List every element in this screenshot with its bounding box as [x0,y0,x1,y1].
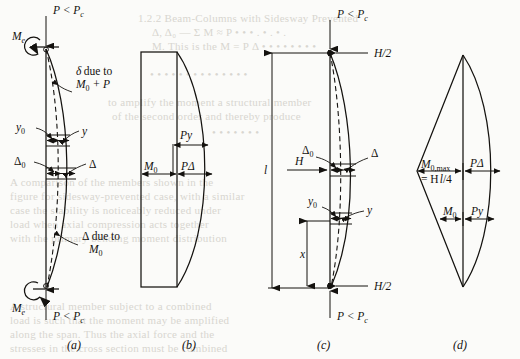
panel-a-caption: (a) [67,338,81,352]
panel-a-bottom-load-label: P < Pc [52,310,84,325]
panel-a-bottom-moment-arrow [24,282,40,300]
panel-a-delta0-label: Δ0 [14,155,25,170]
panel-b-caption: (b) [182,338,196,352]
panel-a-delta0-leader [34,162,54,172]
panel-a-delta-label: Δ [89,158,96,170]
panel-a-delta-note-line1: δdue to [76,65,113,77]
panel-c-y0-label: y0 [307,195,317,210]
panel-d-pdelta-label: PΔ [469,157,484,169]
panel-a-top-moment-arrow [24,37,40,55]
panel-a-y0-label: y0 [15,121,25,136]
panel-a-top-load-label: P < Pc [52,4,84,19]
panel-a-delta-m0-note-leader [60,236,78,245]
panel-a-delta-note-line2: M0 + P [75,78,110,93]
panel-a-y0-leader [36,128,52,139]
panel-c-top-shear-label: H/2 [373,47,392,59]
panel-a-bottom-moment-label: Me [11,302,26,317]
panel-c-delta-leader [350,158,368,168]
panel-b-m0-label: M0 [143,160,158,175]
panel-c: P < Pc H/2 l H Δ0 Δ y0 y x H/2 P < Pc (c… [264,8,392,352]
panel-c-delta-label: Δ [371,147,378,159]
panel-c-x-label: x [299,248,306,260]
engineering-figure: P < Pc Me δdue to M0 + P y0 y Δ0 Δ Δ due… [0,0,520,359]
panel-a-top-moment-label: Me [11,30,26,45]
panel-b: Py M0 PΔ (b) [141,52,212,352]
panel-a: P < Pc Me δdue to M0 + P y0 y Δ0 Δ Δ due… [11,4,120,352]
panel-d-m0max-label: M0,max [420,158,450,173]
panel-c-y-label: y [366,204,373,217]
panel-a-delta-m0-note-line2: M0 [88,243,103,258]
panel-a-delta-m0-note-line1: Δ due to [82,230,120,242]
panel-d-caption: (d) [453,338,467,352]
panel-c-y-leader [347,211,364,217]
panel-d-m0max-formula-label: = Hl/4 [421,173,452,185]
panel-c-delta0-leader [316,157,336,168]
panel-b-pdelta-label: PΔ [180,160,195,172]
panel-b-py-label: Py [179,129,193,142]
panel-c-bottom-load-label: P < Pc [336,310,368,325]
panel-d-m0-label: M0 [442,205,457,220]
panel-d: M0,max = Hl/4 PΔ M0 Py (d) [417,55,500,352]
panel-c-transverse-load-label: H [294,155,304,167]
panel-c-delta0-label: Δ0 [302,144,313,159]
panel-c-top-load-label: P < Pc [336,8,368,23]
panel-c-bottom-shear-label: H/2 [373,280,392,292]
panel-c-length-label: l [264,164,267,176]
panel-a-delta-note-leader [58,85,72,92]
panel-c-caption: (c) [317,338,330,352]
figure-page: 1.2.2 Beam-Columns with Sidesway Prevent… [0,0,520,359]
panel-d-py-label: Py [470,205,484,218]
panel-a-y-label: y [81,125,88,138]
panel-c-y0-leader [322,207,336,217]
